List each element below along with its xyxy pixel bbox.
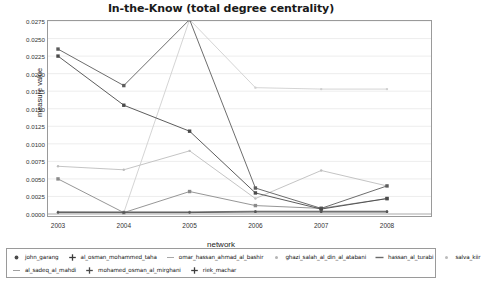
data-point [385, 184, 388, 187]
data-point [56, 54, 59, 57]
legend-marker-icon [66, 253, 79, 262]
data-point [320, 207, 323, 210]
data-point [385, 197, 388, 200]
legend-marker-icon [10, 253, 23, 262]
legend-label: riek_machar [203, 266, 236, 275]
data-point [56, 47, 59, 50]
series-line [58, 179, 387, 213]
legend-marker-icon [164, 253, 177, 262]
legend-label: salva_kiir [455, 253, 480, 262]
y-tick-label: 0.0250 [26, 35, 45, 42]
y-axis-label: measure value [35, 48, 44, 138]
y-tick-label: 0.0275 [26, 18, 45, 25]
x-tick-label: 2007 [314, 222, 328, 229]
chart-legend: john_garangal_osman_mohammed_tahaomar_ha… [6, 248, 436, 278]
data-point [254, 211, 256, 213]
data-point [188, 190, 191, 193]
legend-label: mohamed_osman_al_mirghani [98, 266, 181, 275]
legend-label: al_sadeq_al_mahdi [25, 266, 76, 275]
legend-item-omar_hassan_ahmad_al_bashir[interactable]: omar_hassan_ahmad_al_bashir [164, 253, 264, 262]
data-point [254, 86, 256, 88]
legend-label: john_garang [25, 253, 59, 262]
legend-item-hassan_al_turabi[interactable]: hassan_al_turabi [373, 253, 433, 262]
series-line [58, 21, 387, 213]
data-point [122, 104, 125, 107]
x-tick-label: 2004 [117, 222, 131, 229]
data-point [254, 191, 257, 194]
data-point [320, 169, 322, 171]
legend-marker-icon [10, 266, 23, 275]
data-point [320, 88, 322, 90]
series-hassan_al_turabi [56, 177, 388, 214]
data-point [254, 204, 257, 207]
data-point [123, 211, 125, 213]
legend-label: omar_hassan_ahmad_al_bashir [179, 253, 264, 262]
legend-item-ghazi_salah_al_din_al_atabani[interactable]: ghazi_salah_al_din_al_atabani [270, 253, 366, 262]
legend-item-al_osman_mohammed_taha[interactable]: al_osman_mohammed_taha [66, 253, 157, 262]
series-omar_hassan_ahmad_al_bashir [57, 21, 388, 214]
data-point [57, 165, 59, 167]
plot-canvas [48, 21, 431, 216]
series-ghazi_salah_al_din_al_atabani [57, 150, 388, 200]
legend-item-riek_machar[interactable]: riek_machar [188, 266, 236, 275]
series-al_osman_mohammed_taha [56, 21, 388, 210]
legend-label: ghazi_salah_al_din_al_atabani [285, 253, 366, 262]
series-line [58, 56, 387, 209]
x-tick-label: 2008 [380, 222, 394, 229]
y-tick-label: 0.0050 [26, 175, 45, 182]
data-point [386, 211, 388, 213]
legend-label: al_osman_mohammed_taha [81, 253, 157, 262]
data-point [254, 197, 256, 199]
data-point [320, 211, 322, 213]
legend-marker-icon [83, 266, 96, 275]
plot-area [47, 20, 432, 217]
y-tick-label: 0.0000 [26, 211, 45, 218]
y-tick-label: 0.0075 [26, 158, 45, 165]
data-point [122, 84, 125, 87]
legend-marker-icon [373, 253, 386, 262]
legend-item-salva_kiir[interactable]: salva_kiir [440, 253, 480, 262]
data-point [188, 211, 190, 213]
x-tick-label: 2005 [182, 222, 196, 229]
legend-marker-icon [440, 253, 453, 262]
data-point [123, 169, 125, 171]
series-line [58, 21, 387, 208]
legend-row: john_garangal_osman_mohammed_tahaomar_ha… [10, 251, 432, 264]
legend-item-mohamed_osman_al_mirghani[interactable]: mohamed_osman_al_mirghani [83, 266, 181, 275]
legend-item-john_garang[interactable]: john_garang [10, 253, 59, 262]
legend-marker-icon [270, 253, 283, 262]
data-point [254, 186, 257, 189]
data-point [188, 150, 190, 152]
x-axis-tick-labels: 200320042005200620072008 [0, 222, 442, 234]
data-point [56, 177, 59, 180]
data-point [188, 129, 191, 132]
legend-item-al_sadeq_al_mahdi[interactable]: al_sadeq_al_mahdi [10, 266, 76, 275]
series-line [58, 151, 387, 199]
legend-row: al_sadeq_al_mahdimohamed_osman_al_mirgha… [10, 264, 432, 277]
y-tick-label: 0.0100 [26, 140, 45, 147]
data-point [57, 211, 59, 213]
y-tick-label: 0.0025 [26, 193, 45, 200]
legend-label: hassan_al_turabi [388, 253, 433, 262]
data-point [386, 88, 388, 90]
chart-title: In-the-Know (total degree centrality) [0, 2, 442, 15]
series-john_garang [56, 54, 388, 210]
legend-marker-icon [188, 266, 201, 275]
x-tick-label: 2003 [51, 222, 65, 229]
x-tick-label: 2006 [248, 222, 262, 229]
